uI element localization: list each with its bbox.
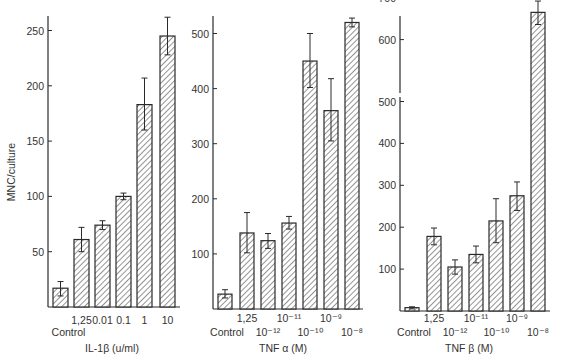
y-tick-label: 700 — [378, 0, 396, 4]
x-category-label: 1,25 — [424, 312, 445, 324]
x-category-label: 10⁻¹² — [256, 326, 281, 338]
x-axis-title: TNF β (M) — [445, 342, 493, 354]
x-axis-title: TNF α (M) — [259, 342, 307, 354]
y-tick-label: 100 — [378, 263, 396, 275]
x-category-label: 10 — [162, 314, 174, 326]
bar — [261, 241, 275, 309]
bar — [116, 196, 131, 307]
y-tick-label: 150 — [26, 135, 44, 147]
x-category-label: 10⁻¹¹ — [464, 312, 489, 324]
y-axis-label: MNC/culture — [5, 143, 17, 202]
chart-panel-il1b: 50100150200250Control1,250.010.1110IL-1β… — [26, 16, 180, 354]
bar — [531, 12, 545, 311]
x-category-label: 10⁻¹² — [443, 326, 468, 338]
y-tick-label: 100 — [26, 190, 44, 202]
y-tick-label: 300 — [191, 138, 209, 150]
y-tick-label: 200 — [191, 193, 209, 205]
y-tick-label: 500 — [191, 28, 209, 40]
y-tick-label: 500 — [378, 96, 396, 108]
x-category-label: 1 — [142, 314, 148, 326]
x-category-label: 1,25 — [237, 312, 258, 324]
chart-panel-tnf-alpha: 100200300400500Control1,2510⁻¹²10⁻¹¹10⁻¹… — [191, 16, 363, 354]
bar — [345, 22, 359, 309]
x-category-label: 0.1 — [116, 314, 131, 326]
bar-chart-figure: 50100150200250Control1,250.010.1110IL-1β… — [0, 0, 563, 364]
x-category-label: 10⁻⁹ — [506, 312, 528, 324]
x-category-label: Control — [52, 326, 86, 338]
x-category-label: 1,25 — [71, 314, 92, 326]
y-tick-label: 600 — [378, 34, 396, 46]
bar — [510, 196, 524, 311]
x-axis-title: IL-1β (u/ml) — [85, 342, 139, 354]
x-category-label: 10⁻¹⁰ — [297, 326, 323, 338]
y-tick-label: 400 — [191, 83, 209, 95]
x-category-label: 10⁻⁸ — [341, 326, 363, 338]
y-tick-label: 100 — [191, 248, 209, 260]
y-tick-label: 200 — [378, 221, 396, 233]
y-tick-label: 400 — [378, 137, 396, 149]
x-category-label: 0.01 — [92, 314, 113, 326]
bar — [282, 223, 296, 309]
bar — [95, 225, 110, 307]
x-category-label: 10⁻¹⁰ — [483, 326, 509, 338]
y-tick-label: 250 — [26, 25, 44, 37]
y-tick-label: 50 — [32, 246, 44, 258]
x-category-label: 10⁻⁸ — [527, 326, 549, 338]
bar — [137, 105, 152, 307]
bar — [160, 36, 175, 307]
chart-panel-tnf-beta: 100200300400500600700Control1,2510⁻¹²10⁻… — [378, 0, 550, 354]
y-tick-label: 200 — [26, 80, 44, 92]
x-category-label: Control — [397, 326, 431, 338]
bar — [303, 61, 317, 309]
bar — [427, 236, 441, 311]
x-category-label: 10⁻⁹ — [320, 312, 342, 324]
x-category-label: Control — [210, 326, 244, 338]
x-category-label: 10⁻¹¹ — [277, 312, 302, 324]
y-tick-label: 300 — [378, 179, 396, 191]
